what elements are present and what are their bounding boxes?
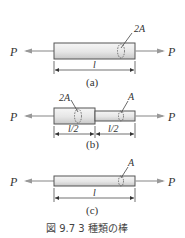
force-label-left: P: [9, 45, 18, 59]
arrowhead-left-icon: [24, 179, 32, 184]
arrowhead-left-icon: [24, 49, 32, 54]
arrowhead-right-icon: [157, 49, 165, 54]
force-label-right: P: [167, 45, 176, 59]
area-label-a: 2A: [134, 23, 146, 34]
force-label-right: P: [167, 110, 176, 124]
length-label-b-left: l/2: [68, 123, 79, 134]
sub-label-a: (a): [86, 76, 99, 89]
panel-a: P 2A P l (a): [9, 23, 176, 89]
area-label-b-thick: 2A: [59, 92, 71, 103]
force-label-left: P: [9, 110, 18, 124]
arrowhead-right-icon: [157, 179, 165, 184]
figure-caption: 図 9.7 3 種類の棒: [46, 222, 128, 234]
length-label-a: l: [93, 59, 96, 70]
bar-b-thin: [95, 111, 135, 121]
length-label-c: l: [93, 187, 96, 198]
arrowhead-left-icon: [24, 114, 32, 119]
panel-c: P A P l (c): [9, 157, 176, 217]
arrowhead-right-icon: [157, 114, 165, 119]
area-label-b-thin: A: [127, 91, 135, 102]
force-label-right: P: [167, 175, 176, 189]
area-label-c: A: [127, 157, 135, 168]
sub-label-b: (b): [86, 138, 99, 151]
three-bars-diagram: P 2A P l (a) P 2A A P: [0, 0, 185, 238]
sub-label-c: (c): [86, 204, 99, 217]
force-label-left: P: [9, 175, 18, 189]
length-label-b-right: l/2: [108, 123, 119, 134]
panel-b: P 2A A P l/2 l/2 (b): [9, 91, 176, 151]
